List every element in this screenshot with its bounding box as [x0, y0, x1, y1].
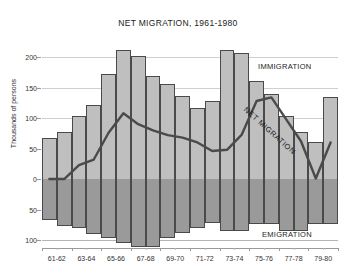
x-tick-mark	[279, 248, 280, 251]
y-tick-label: 100	[25, 237, 37, 244]
x-tick-mark	[338, 248, 339, 251]
x-tick-label: 75-76	[255, 255, 273, 262]
gridline-neg100	[42, 240, 338, 241]
x-tick-mark	[42, 248, 43, 251]
x-tick-mark	[86, 248, 87, 250]
y-tick-mark	[37, 57, 41, 58]
net-migration-chart: NET MIGRATION, 1961-1980 Thousands of pe…	[0, 0, 356, 279]
x-tick-label: 79-80	[314, 255, 332, 262]
x-tick-mark	[160, 248, 161, 251]
y-tick-label: 150	[25, 84, 37, 91]
x-tick-mark	[249, 248, 250, 251]
y-tick-label: 50	[29, 145, 37, 152]
y-tick-mark	[37, 118, 41, 119]
y-axis-label: Thousands of persons	[10, 49, 17, 179]
x-tick-mark	[294, 248, 295, 250]
y-tick-label: 200	[25, 54, 37, 61]
y-tick-mark	[37, 88, 41, 89]
immigration-annotation: IMMIGRATION	[258, 62, 312, 71]
x-tick-label: 65-66	[107, 255, 125, 262]
x-tick-mark	[220, 248, 221, 251]
x-tick-mark	[146, 248, 147, 250]
x-tick-mark	[57, 248, 58, 250]
x-tick-mark	[264, 248, 265, 250]
x-tick-mark	[205, 248, 206, 250]
emigration-annotation: EMIGRATION	[262, 230, 312, 239]
y-tick-mark	[37, 149, 41, 150]
x-tick-label: 77-78	[285, 255, 303, 262]
x-tick-mark	[190, 248, 191, 251]
x-tick-mark	[234, 248, 235, 250]
y-tick-label: 100	[25, 115, 37, 122]
x-tick-label: 69-70	[166, 255, 184, 262]
plot-area: 20015010050050100	[42, 48, 338, 240]
y-tick-mark	[37, 179, 41, 180]
y-tick-label: 0	[33, 176, 37, 183]
net-migration-line	[42, 48, 338, 240]
x-tick-mark	[175, 248, 176, 250]
x-tick-mark	[72, 248, 73, 251]
y-tick-mark	[37, 210, 41, 211]
x-tick-label: 61-62	[48, 255, 66, 262]
x-tick-label: 71-72	[196, 255, 214, 262]
x-tick-mark	[131, 248, 132, 251]
x-tick-label: 63-64	[77, 255, 95, 262]
x-tick-mark	[116, 248, 117, 250]
x-tick-mark	[308, 248, 309, 251]
x-tick-label: 73-74	[225, 255, 243, 262]
chart-title: NET MIGRATION, 1961-1980	[0, 18, 356, 28]
y-tick-label: 50	[29, 206, 37, 213]
x-tick-mark	[101, 248, 102, 251]
x-tick-label: 67-68	[137, 255, 155, 262]
y-tick-mark	[37, 240, 41, 241]
x-tick-mark	[323, 248, 324, 250]
